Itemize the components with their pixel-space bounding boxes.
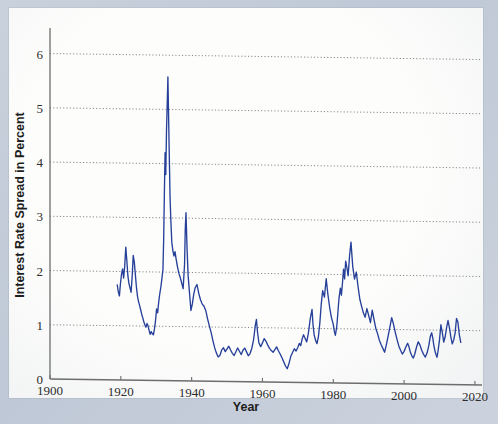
x-tick-label: 2000 xyxy=(391,388,417,403)
gridline xyxy=(50,54,482,60)
line-chart-svg: 0123456 1900192019401960198020002020 Int… xyxy=(0,0,498,424)
data-series-interest-rate-spread xyxy=(117,77,460,369)
gridlines xyxy=(50,54,482,331)
x-tick-label: 1980 xyxy=(320,387,346,402)
gridline xyxy=(50,108,482,114)
x-tick-label: 2020 xyxy=(462,389,488,404)
x-axis-tick-labels: 1900192019401960198020002020 xyxy=(37,383,488,404)
gridline xyxy=(50,162,482,168)
y-tick-label: 1 xyxy=(37,318,44,333)
x-tick-label: 1960 xyxy=(249,386,275,401)
x-tick-label: 1920 xyxy=(108,384,134,399)
x-tick-label: 1940 xyxy=(179,385,205,400)
gridline xyxy=(50,216,482,222)
y-tick-label: 5 xyxy=(37,101,44,116)
x-axis-title: Year xyxy=(233,400,260,414)
y-tick-label: 6 xyxy=(37,47,44,62)
y-tick-label: 2 xyxy=(37,264,44,279)
y-axis-title: Interest Rate Spread in Percent xyxy=(13,111,27,297)
gridline xyxy=(50,325,482,331)
y-axis-tick-labels: 0123456 xyxy=(37,47,44,387)
chart-figure: 0123456 1900192019401960198020002020 Int… xyxy=(0,0,498,424)
gridline xyxy=(50,271,482,277)
y-tick-label: 4 xyxy=(37,155,44,170)
x-tick-label: 1900 xyxy=(37,383,63,398)
axis-lines xyxy=(50,28,482,385)
y-tick-label: 3 xyxy=(37,209,44,224)
